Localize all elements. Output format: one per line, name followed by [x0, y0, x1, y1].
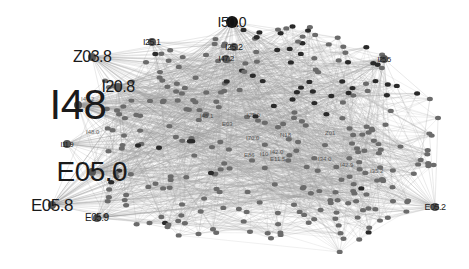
graph-node [218, 167, 224, 171]
graph-node [164, 85, 170, 89]
minor-node-label: I45.1 [200, 113, 213, 119]
graph-node [356, 160, 362, 164]
graph-node [371, 139, 377, 143]
graph-node [311, 56, 317, 60]
graph-node [362, 171, 368, 175]
graph-node [183, 175, 189, 179]
graph-node [403, 209, 409, 213]
graph-node [268, 236, 274, 240]
graph-node [245, 190, 251, 194]
graph-node [178, 213, 184, 217]
graph-node [333, 165, 339, 169]
graph-node [254, 35, 260, 39]
graph-node [262, 121, 268, 125]
minor-node-label: I48.0 [86, 129, 99, 135]
graph-node [196, 232, 202, 236]
graph-node [377, 218, 383, 222]
graph-node [262, 143, 268, 147]
graph-node [334, 210, 340, 214]
graph-node [366, 130, 372, 134]
graph-node [295, 140, 301, 144]
graph-node [335, 36, 341, 40]
graph-node [275, 211, 281, 215]
minor-node-label: E86 [244, 152, 255, 158]
graph-node [351, 182, 357, 186]
graph-node [209, 145, 215, 149]
graph-node [306, 80, 312, 84]
hub-label-i50-0: I50.0 [218, 15, 247, 29]
graph-node [237, 88, 243, 92]
graph-node [424, 152, 430, 156]
graph-node [291, 110, 297, 114]
graph-node [340, 45, 346, 49]
graph-node [106, 149, 112, 153]
graph-node [332, 217, 338, 221]
graph-node [394, 84, 400, 88]
graph-node [135, 143, 141, 147]
graph-node [213, 100, 219, 104]
graph-node [373, 79, 379, 83]
graph-node [221, 161, 227, 165]
graph-node [134, 222, 140, 226]
graph-node [355, 150, 361, 154]
graph-node [306, 221, 312, 225]
graph-node [175, 219, 181, 223]
graph-node [297, 210, 303, 214]
graph-node [363, 192, 369, 196]
graph-node [301, 185, 307, 189]
graph-node [122, 198, 128, 202]
graph-node [345, 60, 351, 64]
hub-label-e05-9: E05.9 [85, 213, 109, 223]
graph-node [167, 48, 173, 52]
graph-node [385, 82, 391, 86]
graph-node [262, 166, 268, 170]
graph-node [203, 53, 209, 57]
graph-node [271, 104, 277, 108]
hub-label-i25-1: I25.1 [143, 38, 161, 47]
graph-node [378, 148, 384, 152]
graph-node [385, 216, 391, 220]
graph-node [365, 206, 371, 210]
graph-node [379, 177, 385, 181]
graph-node [346, 91, 352, 95]
graph-node [250, 74, 256, 78]
graph-node [213, 37, 219, 41]
graph-node [182, 86, 188, 90]
hub-label-i25-5: I25.5 [378, 56, 391, 63]
graph-node [220, 206, 226, 210]
graph-node [375, 62, 381, 66]
graph-node [145, 185, 151, 189]
graph-node [356, 237, 362, 241]
minor-node-label: I10 [260, 151, 268, 157]
graph-node [311, 217, 317, 221]
hub-label-z03-8: Z03.8 [73, 49, 111, 65]
graph-node [411, 172, 417, 176]
graph-node [123, 203, 129, 207]
graph-node [201, 196, 207, 200]
graph-node [208, 171, 214, 175]
graph-node [288, 60, 294, 64]
graph-node [333, 190, 339, 194]
graph-node [350, 86, 356, 90]
graph-node [242, 61, 248, 65]
graph-node [285, 158, 291, 162]
graph-node [323, 112, 329, 116]
graph-node [158, 215, 164, 219]
graph-node [122, 116, 128, 120]
graph-node [173, 135, 179, 139]
graph-node [435, 116, 441, 120]
graph-node [431, 163, 437, 167]
graph-node [384, 93, 390, 97]
graph-node [152, 52, 158, 56]
minor-node-label: I35.2 [370, 168, 383, 174]
graph-node [179, 202, 185, 206]
graph-node [158, 52, 164, 56]
graph-node [355, 215, 361, 219]
graph-node [157, 70, 163, 74]
graph-node [244, 210, 250, 214]
graph-node [203, 90, 209, 94]
graph-node [287, 47, 293, 51]
graph-node [426, 131, 432, 135]
graph-node [275, 222, 281, 226]
graph-node [179, 91, 185, 95]
